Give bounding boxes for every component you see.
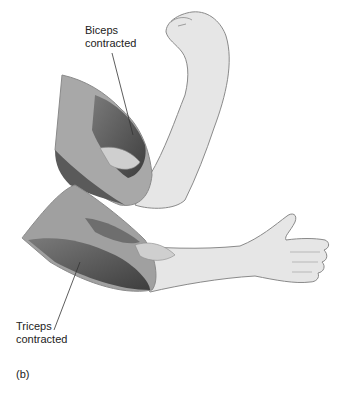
panel-label: (b) [16,368,29,381]
biceps-label: Biceps contracted [85,24,136,50]
biceps-label-line2: contracted [85,37,136,50]
biceps-label-line1: Biceps [85,24,136,37]
triceps-label-line2: contracted [16,333,67,346]
triceps-label: Triceps contracted [16,320,67,346]
triceps-label-line1: Triceps [16,320,67,333]
